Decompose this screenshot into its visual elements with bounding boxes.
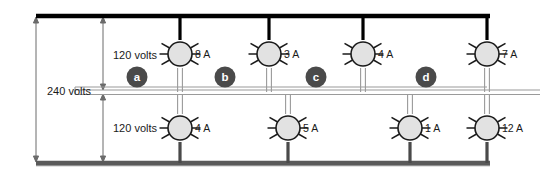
lamp-lower-3-current: 1 A bbox=[425, 122, 440, 134]
upper-load-group bbox=[160, 42, 508, 66]
lamp-upper-4-current: 7 A bbox=[502, 48, 517, 60]
lamp-upper-4-envelope bbox=[475, 42, 499, 66]
lamp-upper-2-envelope bbox=[257, 42, 281, 66]
lamp-lower-1-envelope bbox=[168, 116, 192, 140]
section-badge-c: c bbox=[306, 67, 327, 88]
lamp-lower-2-current: 5 A bbox=[303, 122, 318, 134]
section-badge-a: a bbox=[127, 67, 148, 88]
neutral-bus bbox=[75, 90, 540, 95]
lower-load-group bbox=[160, 116, 508, 140]
lamp-lower-4-envelope bbox=[475, 116, 499, 140]
neutral-return-upper-2 bbox=[267, 68, 272, 92]
section-badge-a-label: a bbox=[134, 71, 141, 83]
neutral-return-upper-4 bbox=[485, 68, 490, 92]
section-badge-d: d bbox=[416, 67, 437, 88]
lamp-upper-2-current: 3 A bbox=[284, 48, 299, 60]
lower-lamp-drops bbox=[180, 142, 487, 163]
neutral-feed-lower-4 bbox=[485, 95, 490, 115]
section-badges: a b c d bbox=[127, 67, 437, 88]
dimension-label-lower: 120 volts bbox=[113, 122, 158, 134]
lamp-lower-3-envelope bbox=[398, 116, 422, 140]
lamp-upper-1-envelope bbox=[168, 42, 192, 66]
neutral-return-upper-3 bbox=[361, 68, 366, 92]
neutral-feed-lower-1 bbox=[178, 95, 183, 115]
circuit-schematic-svg: a b c d 240 volts 120 volts 120 volts 8 … bbox=[0, 0, 547, 178]
section-badge-b-label: b bbox=[221, 71, 228, 83]
section-badge-b: b bbox=[215, 67, 236, 88]
neutral-feed-lower-3 bbox=[408, 95, 413, 115]
dimension-label-overall: 240 volts bbox=[47, 85, 92, 97]
dimension-label-upper: 120 volts bbox=[113, 49, 158, 61]
circuit-diagram: a b c d 240 volts 120 volts 120 volts 8 … bbox=[0, 0, 547, 178]
lamp-upper-3-envelope bbox=[351, 42, 375, 66]
section-badge-d-label: d bbox=[422, 71, 429, 83]
neutral-feed-lower-2 bbox=[286, 95, 291, 115]
upper-lamp-drops bbox=[180, 16, 487, 40]
lamp-lower-2-envelope bbox=[276, 116, 300, 140]
lamp-lower-4-current: 12 A bbox=[502, 122, 523, 134]
lamp-upper-1-current: 8 A bbox=[195, 48, 210, 60]
line-2-hot-bus bbox=[36, 163, 490, 166]
section-badge-c-label: c bbox=[313, 71, 320, 83]
neutral-return-upper-1 bbox=[178, 68, 183, 92]
lamp-lower-1-current: 4 A bbox=[195, 122, 210, 134]
lamp-upper-3-current: 4 A bbox=[378, 48, 393, 60]
lower-neutral-feeds bbox=[178, 95, 490, 115]
